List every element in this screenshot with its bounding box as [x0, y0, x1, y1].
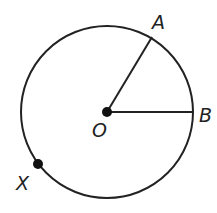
label-O: O	[92, 119, 107, 141]
label-B: B	[199, 104, 212, 126]
radius-OA	[107, 37, 152, 112]
label-A: A	[150, 11, 165, 33]
point-X	[33, 159, 43, 169]
center-point-O	[102, 107, 112, 117]
label-X: X	[15, 172, 30, 194]
circle-diagram: A B O X	[0, 0, 217, 213]
